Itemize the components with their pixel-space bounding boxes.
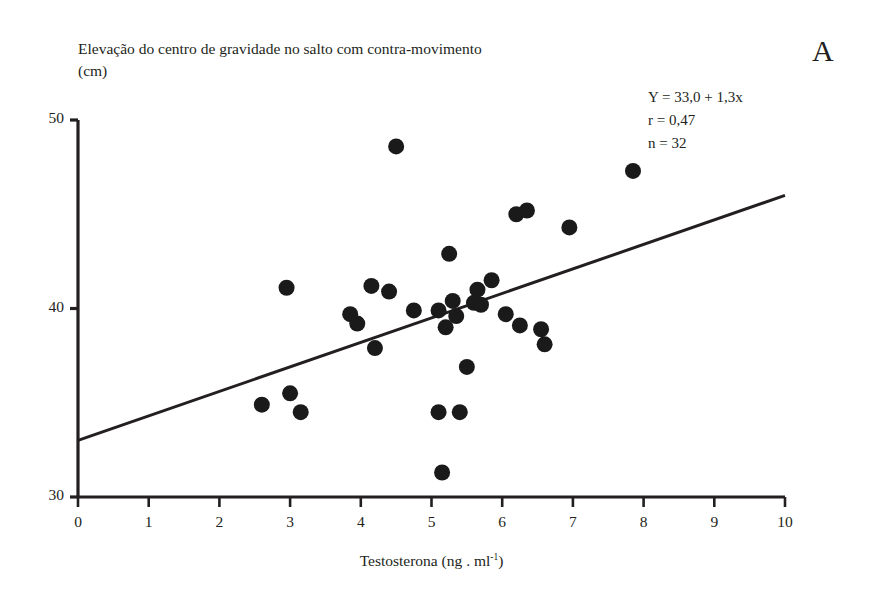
data-point: [533, 321, 549, 337]
data-point: [445, 293, 461, 309]
y-tick-label: 50: [30, 109, 64, 127]
data-point: [406, 302, 422, 318]
data-point: [625, 163, 641, 179]
x-tick-label: 1: [134, 513, 164, 531]
data-point: [388, 138, 404, 154]
data-point: [473, 297, 489, 313]
scatter-plot-canvas: [0, 0, 889, 598]
data-point: [293, 404, 309, 420]
data-point: [363, 278, 379, 294]
data-point: [452, 404, 468, 420]
x-tick-label: 2: [204, 513, 234, 531]
data-point: [498, 306, 514, 322]
sample-size: n = 32: [648, 132, 743, 155]
data-point: [469, 282, 485, 298]
data-point: [441, 246, 457, 262]
x-tick-label: 5: [417, 513, 447, 531]
x-tick-label: 8: [629, 513, 659, 531]
data-point: [561, 219, 577, 235]
data-point: [279, 280, 295, 296]
figure-panel: A Elevação do centro de gravidade no sal…: [0, 0, 889, 598]
data-point: [431, 404, 447, 420]
regression-trend-line: [78, 195, 785, 440]
correlation-coefficient: r = 0,47: [648, 109, 743, 132]
axis-ticks: [70, 120, 785, 507]
panel-label: A: [812, 36, 834, 66]
data-points: [254, 138, 641, 480]
y-tick-label: 40: [30, 298, 64, 316]
x-tick-label: 4: [346, 513, 376, 531]
y-tick-label: 30: [30, 486, 64, 504]
x-tick-label: 6: [487, 513, 517, 531]
statistics-annotation: Y = 33,0 + 1,3x r = 0,47 n = 32: [648, 86, 743, 154]
data-point: [512, 317, 528, 333]
y-axis-title: Elevação do centro de gravidade no salto…: [78, 38, 698, 83]
x-tick-label: 3: [275, 513, 305, 531]
regression-equation: Y = 33,0 + 1,3x: [648, 86, 743, 109]
data-point: [484, 272, 500, 288]
data-point: [349, 316, 365, 332]
data-point: [434, 464, 450, 480]
x-axis-title-exponent: -1: [490, 552, 498, 562]
x-axis-title: Testosterona (ng . ml-1): [78, 552, 785, 570]
data-point: [459, 359, 475, 375]
data-point: [367, 340, 383, 356]
data-point: [448, 308, 464, 324]
x-axis-title-close: ): [498, 552, 503, 569]
regression-line: [78, 195, 785, 440]
data-point: [282, 385, 298, 401]
data-point: [431, 302, 447, 318]
x-tick-label: 0: [63, 513, 93, 531]
data-point: [537, 336, 553, 352]
x-tick-label: 10: [770, 513, 800, 531]
data-point: [519, 202, 535, 218]
x-tick-label: 7: [558, 513, 588, 531]
x-axis-title-main: Testosterona (ng . ml: [360, 552, 491, 569]
data-point: [254, 397, 270, 413]
x-tick-label: 9: [699, 513, 729, 531]
data-point: [381, 284, 397, 300]
